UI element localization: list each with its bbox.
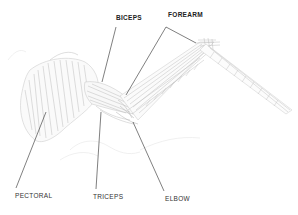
biceps-leader [102, 27, 116, 82]
label-biceps: BICEPS [116, 15, 142, 22]
forearm-leader-b [166, 27, 196, 43]
label-forearm: FOREARM [168, 12, 203, 19]
hand-drawing [200, 44, 292, 114]
elbow-leader [133, 122, 164, 191]
wing-anatomy-diagram: BICEPS FOREARM PECTORAL TRICEPS ELBOW [0, 0, 298, 215]
label-elbow: ELBOW [165, 196, 190, 203]
wing-illustration [0, 0, 298, 215]
triceps-leader [96, 112, 101, 189]
label-pectoral: PECTORAL [15, 193, 52, 200]
label-triceps: TRICEPS [93, 194, 123, 201]
